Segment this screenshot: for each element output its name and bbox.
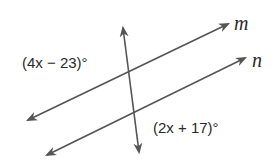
angle-label-lower-right: (2x + 17)° (153, 119, 219, 136)
angle-label-upper-left: (4x − 23)° (22, 54, 88, 71)
label-n: n (252, 49, 262, 71)
label-m: m (234, 12, 248, 34)
parallel-lines-diagram: m n (4x − 23)° (2x + 17)° (0, 0, 277, 161)
transversal-line (123, 28, 139, 152)
line-n (47, 58, 245, 155)
